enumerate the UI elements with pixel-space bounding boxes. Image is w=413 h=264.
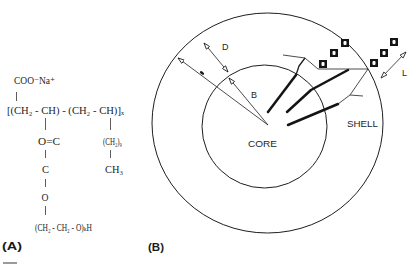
square-monomer-icon <box>341 39 349 47</box>
panel-b-label: (B) <box>148 242 164 253</box>
square-monomer-icon <box>370 59 378 67</box>
panel-a-label: (A) <box>2 241 22 252</box>
square-monomer-icon <box>380 49 388 57</box>
monomer-units-left <box>319 39 349 68</box>
square-monomer-icon <box>330 49 338 57</box>
core-radius-label: B <box>251 90 257 100</box>
oxygen-atom: O <box>42 192 49 203</box>
segment-length-label: L <box>402 68 407 78</box>
square-monomer-icon <box>390 38 398 46</box>
monomer-units-right <box>370 38 398 67</box>
peg-chain: (CH₂ - CH₂ - O)ₖH <box>35 222 92 234</box>
alkyl-chain: (CH₂)₉ <box>103 136 122 148</box>
core-boundary-circle <box>202 65 327 188</box>
shell-thickness-label: D <box>222 42 229 52</box>
figure-canvas: COO⁻Na⁺ [(CH₂ - CH) - (CH₂ - CH)]ₓ O=C (… <box>0 0 413 264</box>
polymer-backbone: [(CH₂ - CH) - (CH₂ - CH)]ₓ <box>7 105 124 117</box>
ester-carbonyl: O=C <box>38 136 60 147</box>
carbon-atom: C <box>42 164 49 175</box>
carboxylate-group: COO⁻Na⁺ <box>14 75 55 86</box>
core-radius-arrow <box>229 78 268 125</box>
shell-label: SHELL <box>347 119 378 129</box>
square-monomer-icon <box>319 60 327 68</box>
core-label: CORE <box>248 139 277 149</box>
chemical-structure: COO⁻Na⁺ [(CH₂ - CH) - (CH₂ - CH)]ₓ O=C (… <box>2 75 124 252</box>
core-shell-diagram: B D <box>148 13 407 253</box>
polymer-chain-a <box>268 55 368 112</box>
polymer-chain-c <box>288 69 368 125</box>
methyl-group: CH₃ <box>105 164 123 175</box>
